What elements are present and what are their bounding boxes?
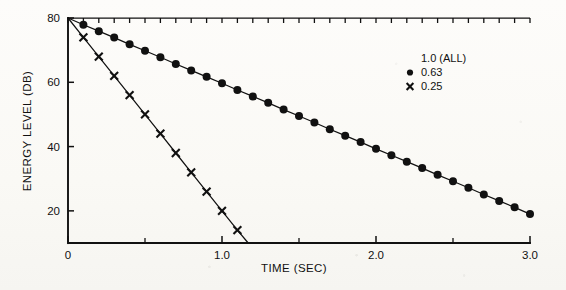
legend-label: 1.0 (ALL) (421, 52, 466, 64)
data-point (280, 106, 288, 114)
data-point (418, 164, 426, 172)
data-point (480, 190, 488, 198)
x-tick-label: 3.0 (522, 249, 538, 261)
data-point (495, 197, 503, 205)
data-point (233, 86, 241, 94)
data-point (341, 132, 349, 140)
data-point (372, 145, 380, 153)
series-1-0-all- (68, 18, 530, 23)
data-point (126, 40, 134, 48)
x-axis-title: TIME (SEC) (261, 262, 327, 274)
y-tick-label: 20 (47, 205, 60, 217)
legend-marker-circle (407, 69, 413, 75)
data-point (218, 79, 226, 87)
legend-label: 0.63 (421, 66, 442, 78)
data-point (511, 203, 519, 211)
data-point (249, 92, 257, 100)
data-point (95, 27, 103, 35)
data-point (403, 158, 411, 166)
series-0-63 (68, 18, 534, 218)
y-tick-label: 40 (47, 141, 60, 153)
data-point (526, 210, 534, 218)
data-point (295, 112, 303, 120)
x-tick-label: 1.0 (214, 249, 230, 261)
y-axis-title: ENERGY LEVEL (DB) (21, 71, 33, 192)
data-point (434, 171, 442, 179)
data-point (110, 34, 118, 42)
data-point (357, 138, 365, 146)
data-point (387, 151, 395, 159)
data-point (464, 184, 472, 192)
tick-labels-group: 8060402001.02.03.0 (47, 12, 538, 261)
data-point (187, 66, 195, 74)
data-point (326, 125, 334, 133)
data-point (310, 118, 318, 126)
y-tick-label: 60 (47, 76, 60, 88)
legend-label: 0.25 (421, 80, 442, 92)
chart-canvas: 8060402001.02.03.0 TIME (SEC) ENERGY LEV… (0, 0, 566, 290)
data-point (172, 60, 180, 68)
data-point (79, 21, 87, 29)
data-point (264, 99, 272, 107)
chart-legend: 1.0 (ALL)0.630.25 (407, 52, 467, 92)
data-point (156, 53, 164, 61)
data-point (203, 73, 211, 81)
x-tick-label: 0 (65, 249, 71, 261)
series-0-25 (68, 18, 248, 243)
energy-decay-chart: 8060402001.02.03.0 TIME (SEC) ENERGY LEV… (0, 0, 566, 290)
data-point (141, 47, 149, 55)
x-tick-label: 2.0 (368, 249, 384, 261)
data-point (449, 177, 457, 185)
y-tick-label: 80 (47, 12, 60, 24)
